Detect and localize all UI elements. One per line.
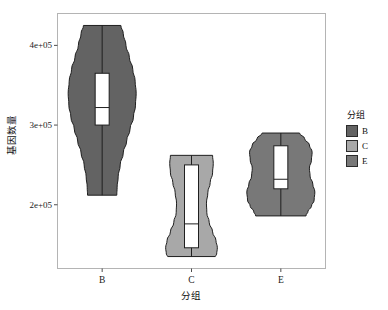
x-axis-tick-label-E: E bbox=[278, 275, 284, 286]
violin-plot-figure: 基因数量 2e+053e+054e+05 BCE 分组 分组 BCE bbox=[0, 0, 388, 310]
x-axis-tick-labels: BCE bbox=[0, 0, 388, 310]
x-axis-tick-label-B: B bbox=[99, 275, 105, 286]
x-axis-title: 分组 bbox=[57, 288, 325, 302]
legend-item-B[interactable]: B bbox=[346, 124, 386, 138]
legend: 分组 BCE bbox=[346, 108, 386, 169]
legend-title: 分组 bbox=[346, 108, 386, 121]
legend-items: BCE bbox=[346, 124, 386, 168]
legend-item-E[interactable]: E bbox=[346, 154, 386, 168]
legend-swatch-B bbox=[346, 125, 358, 137]
legend-item-C[interactable]: C bbox=[346, 139, 386, 153]
x-axis-tick-label-C: C bbox=[188, 275, 194, 286]
legend-swatch-E bbox=[346, 155, 358, 167]
legend-label-B: B bbox=[362, 126, 368, 136]
legend-label-E: E bbox=[362, 156, 368, 166]
legend-swatch-C bbox=[346, 140, 358, 152]
legend-label-C: C bbox=[362, 141, 368, 151]
